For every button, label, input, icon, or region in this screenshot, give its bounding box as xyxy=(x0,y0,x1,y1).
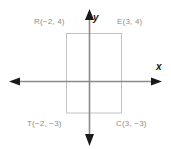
x-axis-right-arrow-icon xyxy=(151,78,162,86)
rectangle-rect xyxy=(67,34,122,114)
vertex-label-e: E(3, 4) xyxy=(117,18,142,26)
x-axis-left-arrow-icon xyxy=(9,78,20,86)
y-axis-down-arrow-icon xyxy=(85,134,94,146)
vertex-label-r: R(−2, 4) xyxy=(34,18,65,26)
vertex-label-c: C(3, −3) xyxy=(116,120,147,128)
y-axis-label: y xyxy=(93,13,99,23)
coordinate-plane-figure: R(−2, 4) E(3, 4) T(−2, −3) C(3, −3) x y xyxy=(0,0,171,149)
vertex-label-t: T(−2, −3) xyxy=(27,120,62,128)
x-axis-label: x xyxy=(156,62,162,72)
